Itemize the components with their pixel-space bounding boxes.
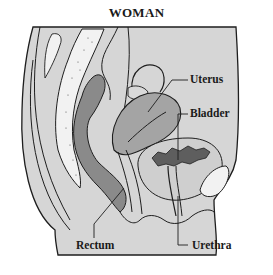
label-bladder: Bladder <box>190 107 230 119</box>
label-uterus: Uterus <box>190 73 223 85</box>
anatomy-illustration <box>0 0 273 275</box>
label-rectum: Rectum <box>76 239 114 251</box>
diagram-canvas: WOMAN <box>0 0 273 275</box>
label-urethra: Urethra <box>192 239 231 251</box>
